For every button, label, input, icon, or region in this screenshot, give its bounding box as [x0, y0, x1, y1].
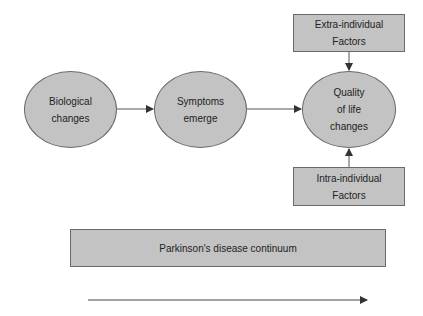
node-parkinsons-disease-continuum: Parkinson's disease continuum [70, 229, 386, 267]
node-label-line: Parkinson's disease continuum [159, 240, 297, 257]
node-symptoms-emerge: Symptoms emerge [154, 71, 247, 148]
node-label-line: Factors [332, 187, 365, 204]
diagram-canvas: Biological changes Symptoms emerge Quali… [0, 0, 423, 316]
node-label-line: Quality [333, 84, 364, 101]
node-label-line: Intra-individual [316, 170, 381, 187]
node-biological-changes: Biological changes [24, 71, 117, 148]
node-label-line: Factors [332, 33, 365, 50]
node-label-line: Symptoms [177, 93, 224, 110]
node-label-line: of life [337, 101, 361, 118]
node-label-line: Biological [49, 93, 92, 110]
node-label-line: emerge [184, 110, 218, 127]
node-extra-individual-factors: Extra-individual Factors [293, 14, 405, 52]
node-intra-individual-factors: Intra-individual Factors [293, 167, 405, 206]
node-label-line: changes [330, 118, 368, 135]
node-quality-of-life-changes: Quality of life changes [302, 71, 396, 148]
node-label-line: Extra-individual [315, 16, 383, 33]
node-label-line: changes [52, 110, 90, 127]
